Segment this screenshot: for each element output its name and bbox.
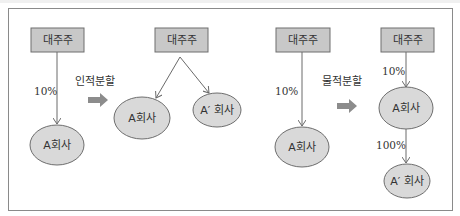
ownership-arrow	[180, 57, 209, 93]
ownership-label: 10%	[34, 85, 57, 97]
subsidiary-node: A′ 회사	[384, 164, 430, 198]
ownership-label: 10%	[382, 65, 405, 77]
material-split-before: 대주주 10% A회사	[275, 28, 330, 167]
company-node: A′ 회사	[193, 93, 241, 127]
shareholder-label: 대주주	[288, 34, 318, 47]
company-label: A회사	[288, 141, 316, 154]
split-diagram: 대주주 10% A회사 인적분할 대주주 A회사 A′ 회사 대주주	[0, 0, 460, 216]
shareholder-box: 대주주	[276, 28, 330, 52]
material-split-label: 물적분할	[322, 75, 362, 88]
company-label: A회사	[43, 139, 71, 152]
material-split-after: 대주주 10% A회사 100% A′ 회사	[376, 28, 434, 198]
subsidiary-label: A′ 회사	[390, 175, 424, 188]
company-label: A′ 회사	[200, 104, 234, 117]
human-split-after: 대주주 A회사 A′ 회사	[114, 28, 241, 139]
transition-arrow-icon	[337, 99, 357, 113]
shareholder-label: 대주주	[167, 34, 197, 47]
shareholder-label: 대주주	[393, 34, 423, 47]
shareholder-box: 대주주	[381, 28, 434, 52]
shareholder-box: 대주주	[31, 28, 84, 52]
shareholder-label: 대주주	[43, 34, 73, 47]
human-split-before: 대주주 10% A회사	[30, 28, 84, 165]
shareholder-box: 대주주	[155, 28, 208, 52]
transition-arrow-icon	[88, 93, 108, 107]
company-node: A회사	[114, 97, 170, 139]
company-node: A회사	[379, 87, 433, 129]
company-node: A회사	[30, 125, 84, 165]
company-label: A회사	[128, 112, 156, 125]
company-node: A회사	[275, 127, 329, 167]
company-label: A회사	[392, 102, 420, 115]
human-split-label: 인적분할	[75, 75, 115, 88]
subsidiary-ownership-label: 100%	[376, 139, 406, 151]
ownership-arrow	[156, 57, 180, 98]
ownership-label: 10%	[275, 85, 298, 97]
